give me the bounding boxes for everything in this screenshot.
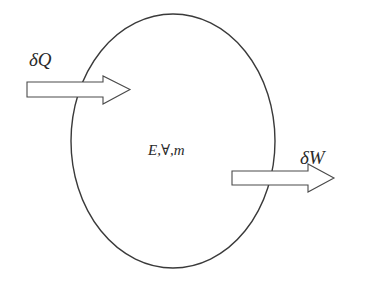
system-properties-label: E,∀,m: [147, 142, 185, 158]
work-label: δW: [300, 147, 327, 168]
heat-label: δQ: [29, 49, 52, 70]
heat-arrow: [27, 76, 130, 104]
control-volume-diagram: δQ E,∀,m δW: [0, 0, 367, 282]
work-arrow: [232, 164, 334, 192]
work-arrow-icon: [232, 164, 334, 192]
heat-arrow-icon: [27, 76, 130, 104]
system-boundary: [71, 14, 275, 268]
